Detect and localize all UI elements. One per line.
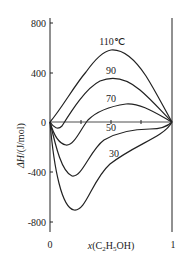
curve-label-70: 70 xyxy=(106,93,116,104)
x-tick-label: 0 xyxy=(48,239,53,250)
enthalpy-chart: 800 400 0 -400 -800 ΔH/(J/mol) 0 1 x(C2H… xyxy=(0,0,188,266)
x-axis-title: x(C2H5OH) xyxy=(87,240,134,253)
y-tick-label: 400 xyxy=(31,68,46,79)
curve-label-50: 50 xyxy=(106,122,116,133)
y-tick-label: 0 xyxy=(41,117,46,128)
y-axis-title: ΔH/(J/mol) xyxy=(15,123,27,169)
y-tick-label: 800 xyxy=(31,18,46,29)
curve-30 xyxy=(50,122,172,210)
curve-label-90: 90 xyxy=(106,65,116,76)
curve-110 xyxy=(50,50,172,122)
curve-label-110: 110℃ xyxy=(99,36,125,47)
curve-label-30: 30 xyxy=(109,148,119,159)
x-tick-label: 1 xyxy=(171,239,176,250)
y-tick-label: -400 xyxy=(28,167,46,178)
y-tick-label: -800 xyxy=(28,217,46,228)
